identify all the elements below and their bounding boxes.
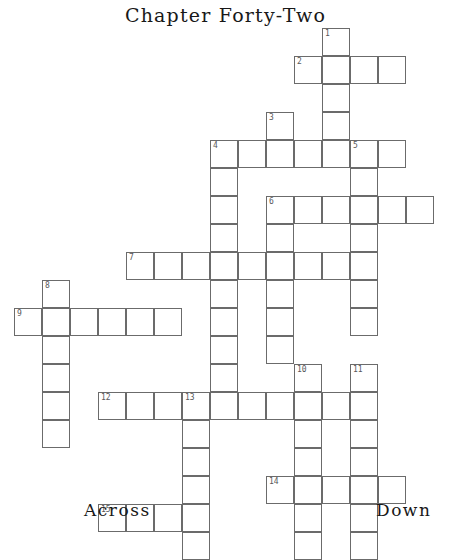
crossword-cell[interactable] (322, 84, 350, 112)
crossword-cell[interactable] (210, 280, 238, 308)
crossword-cell[interactable] (182, 532, 210, 560)
crossword-cell[interactable] (350, 168, 378, 196)
crossword-cell[interactable] (126, 308, 154, 336)
crossword-cell[interactable] (42, 364, 70, 392)
crossword-cell[interactable] (294, 392, 322, 420)
crossword-cell[interactable] (98, 308, 126, 336)
crossword-cell[interactable] (378, 140, 406, 168)
crossword-cell[interactable] (238, 252, 266, 280)
crossword-cell[interactable] (322, 252, 350, 280)
crossword-cell-2[interactable]: 2 (294, 56, 322, 84)
crossword-cell[interactable] (42, 308, 70, 336)
crossword-cell-8[interactable]: 8 (42, 280, 70, 308)
crossword-cell-14[interactable]: 14 (266, 476, 294, 504)
crossword-cell-13[interactable]: 13 (182, 392, 210, 420)
clue-number-1: 1 (325, 29, 330, 39)
crossword-cell[interactable] (70, 308, 98, 336)
crossword-cell[interactable] (182, 476, 210, 504)
crossword-cell[interactable] (350, 196, 378, 224)
crossword-cell[interactable] (154, 392, 182, 420)
crossword-cell-6[interactable]: 6 (266, 196, 294, 224)
crossword-cell[interactable] (238, 140, 266, 168)
crossword-cell[interactable] (350, 532, 378, 560)
clue-number-5: 5 (353, 141, 358, 151)
crossword-cell-7[interactable]: 7 (126, 252, 154, 280)
crossword-cell[interactable] (266, 252, 294, 280)
crossword-cell[interactable] (42, 420, 70, 448)
crossword-cell[interactable] (266, 392, 294, 420)
crossword-cell[interactable] (182, 252, 210, 280)
crossword-cell[interactable] (294, 448, 322, 476)
clue-number-7: 7 (129, 253, 134, 263)
crossword-cell[interactable] (350, 476, 378, 504)
crossword-cell[interactable] (210, 336, 238, 364)
crossword-cell[interactable] (182, 504, 210, 532)
crossword-cell[interactable] (350, 280, 378, 308)
crossword-cell[interactable] (126, 392, 154, 420)
crossword-cell[interactable] (266, 308, 294, 336)
clue-number-9: 9 (17, 309, 22, 319)
crossword-cell[interactable] (322, 196, 350, 224)
crossword-cell-4[interactable]: 4 (210, 140, 238, 168)
crossword-cell[interactable] (350, 252, 378, 280)
legend-across-label: Across (84, 500, 151, 520)
crossword-cell[interactable] (350, 420, 378, 448)
crossword-cell-11[interactable]: 11 (350, 364, 378, 392)
crossword-cell[interactable] (210, 224, 238, 252)
crossword-cell[interactable] (154, 308, 182, 336)
crossword-cell[interactable] (42, 392, 70, 420)
crossword-cell[interactable] (238, 392, 266, 420)
crossword-cell[interactable] (350, 308, 378, 336)
crossword-cell-3[interactable]: 3 (266, 112, 294, 140)
clue-number-3: 3 (269, 113, 274, 123)
crossword-cell[interactable] (378, 196, 406, 224)
crossword-cell[interactable] (182, 420, 210, 448)
crossword-cell-10[interactable]: 10 (294, 364, 322, 392)
clue-number-14: 14 (269, 477, 279, 487)
crossword-cell[interactable] (210, 196, 238, 224)
crossword-cell[interactable] (378, 56, 406, 84)
crossword-cell-9[interactable]: 9 (14, 308, 42, 336)
crossword-cell[interactable] (322, 112, 350, 140)
crossword-cell-1[interactable]: 1 (322, 28, 350, 56)
crossword-cell[interactable] (210, 168, 238, 196)
crossword-cell[interactable] (266, 336, 294, 364)
crossword-cell[interactable] (294, 196, 322, 224)
clue-number-6: 6 (269, 197, 274, 207)
crossword-cell[interactable] (322, 140, 350, 168)
crossword-cell[interactable] (154, 504, 182, 532)
crossword-cell[interactable] (350, 224, 378, 252)
crossword-cell[interactable] (294, 532, 322, 560)
crossword-cell[interactable] (182, 448, 210, 476)
crossword-cell[interactable] (154, 252, 182, 280)
clue-number-8: 8 (45, 281, 50, 291)
crossword-cell[interactable] (266, 280, 294, 308)
crossword-cell[interactable] (350, 448, 378, 476)
crossword-cell[interactable] (294, 252, 322, 280)
clue-number-2: 2 (297, 57, 302, 67)
crossword-cell[interactable] (210, 364, 238, 392)
crossword-cell[interactable] (406, 196, 434, 224)
crossword-cell[interactable] (294, 476, 322, 504)
crossword-cell-12[interactable]: 12 (98, 392, 126, 420)
crossword-cell[interactable] (210, 392, 238, 420)
crossword-cell[interactable] (350, 504, 378, 532)
crossword-cell[interactable] (210, 252, 238, 280)
crossword-cell[interactable] (322, 476, 350, 504)
crossword-cell[interactable] (322, 392, 350, 420)
clue-number-13: 13 (185, 393, 195, 403)
crossword-cell[interactable] (266, 140, 294, 168)
crossword-cell-5[interactable]: 5 (350, 140, 378, 168)
crossword-cell[interactable] (42, 336, 70, 364)
clue-number-12: 12 (101, 393, 111, 403)
crossword-cell[interactable] (266, 224, 294, 252)
crossword-cell[interactable] (294, 140, 322, 168)
crossword-cell[interactable] (210, 308, 238, 336)
crossword-cell[interactable] (322, 56, 350, 84)
crossword-cell[interactable] (350, 56, 378, 84)
crossword-cell[interactable] (294, 504, 322, 532)
crossword-cell[interactable] (350, 392, 378, 420)
crossword-cell[interactable] (294, 420, 322, 448)
